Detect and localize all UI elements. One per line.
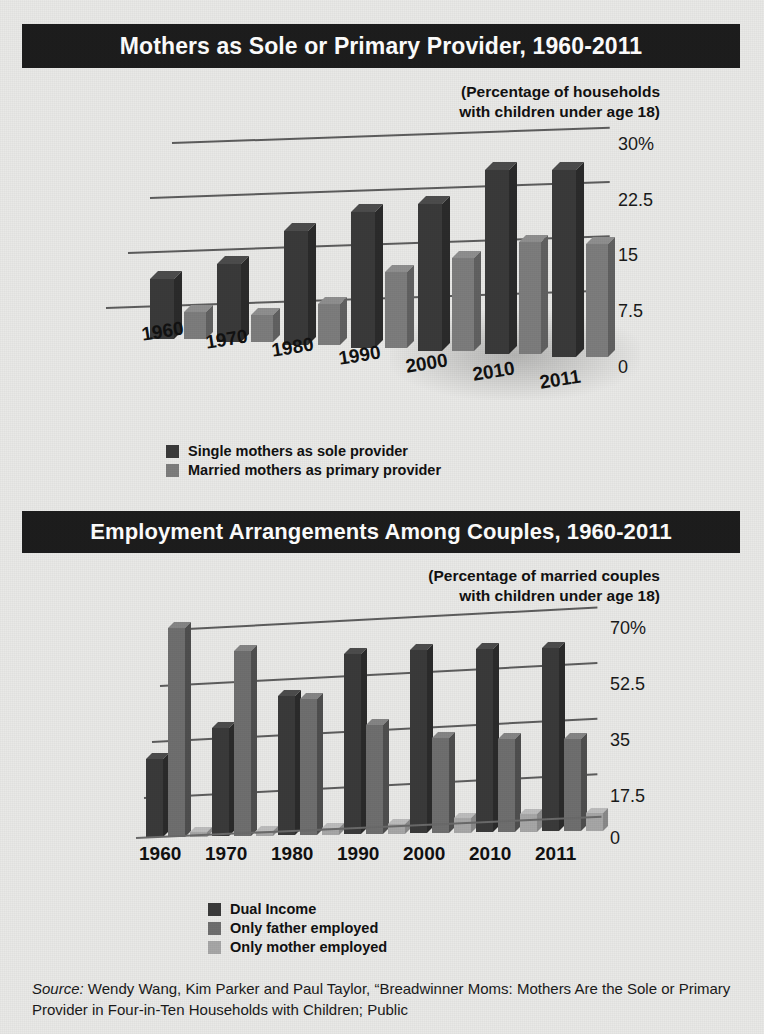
- chart2-gridline-70: [168, 606, 598, 631]
- bar-face: [485, 170, 509, 354]
- legend-label-married-mothers: Married mothers as primary provider: [188, 462, 441, 478]
- legend-swatch-only-mother: [208, 941, 221, 954]
- bar-side: [308, 223, 316, 345]
- legend-label-dual-income: Dual Income: [230, 901, 316, 917]
- bar2-1970-dual: [212, 728, 229, 836]
- chart1-title-bar: Mothers as Sole or Primary Provider, 196…: [22, 24, 740, 68]
- legend-item-married-mothers[interactable]: Married mothers as primary provider: [166, 462, 441, 478]
- chart2-ytick-70: 70%: [610, 618, 646, 639]
- chart2-xlabel-1970: 1970: [205, 843, 247, 865]
- bar-2000-married: [452, 258, 474, 351]
- bar-side: [273, 308, 280, 342]
- bar-side: [509, 162, 517, 354]
- bar-side: [185, 622, 191, 837]
- bar-face: [452, 258, 474, 351]
- legend-label-only-father: Only father employed: [230, 920, 378, 936]
- bar-face: [366, 725, 383, 834]
- chart1-xlabel-2010: 2010: [471, 357, 516, 385]
- bar-face: [146, 759, 163, 837]
- source-label: Source:: [32, 980, 84, 997]
- chart1-xlabel-2011: 2011: [538, 366, 582, 394]
- legend-swatch-dual-income: [208, 903, 221, 916]
- bar-face: [385, 272, 407, 348]
- bar-side: [407, 265, 414, 348]
- bar-side: [375, 204, 383, 348]
- bar-face: [520, 814, 537, 832]
- chart1-ytick-15: 15: [618, 245, 638, 266]
- chart1-subtitle: (Percentage of households with children …: [380, 82, 660, 122]
- chart2-xlabel-1980: 1980: [271, 843, 313, 865]
- bar-side: [383, 719, 389, 834]
- chart2-xlabel-2000: 2000: [403, 843, 445, 865]
- bar-2011-single: [552, 170, 576, 357]
- bar-2010-single: [485, 170, 509, 354]
- chart2-ytick-35: 35: [610, 730, 630, 751]
- bar-side: [541, 235, 548, 354]
- bar-1970-married: [251, 315, 273, 342]
- bar-face: [184, 312, 206, 339]
- chart2-xlabel-2011: 2011: [535, 843, 576, 865]
- bar2-2000-father: [432, 738, 449, 833]
- legend-swatch-only-father: [208, 922, 221, 935]
- bar-face: [542, 648, 559, 831]
- bar-face: [454, 818, 471, 833]
- bar-2000-single: [418, 204, 442, 351]
- chart1-ytick-22: 22.5: [618, 190, 653, 211]
- bar-1980-married: [318, 304, 340, 345]
- bar-1990-single: [351, 212, 375, 348]
- legend-item-single-mothers[interactable]: Single mothers as sole provider: [166, 443, 441, 459]
- chart2-xlabel-2010: 2010: [469, 843, 511, 865]
- chart1-xlabel-1990: 1990: [337, 341, 382, 369]
- bar-face: [476, 649, 493, 832]
- bar-side: [576, 162, 584, 357]
- source-note: Source: Wendy Wang, Kim Parker and Paul …: [32, 978, 732, 1020]
- chart2-legend: Dual Income Only father employed Only mo…: [208, 901, 387, 958]
- chart1-ytick-7: 7.5: [618, 301, 643, 322]
- bar2-2011-dual: [542, 648, 559, 831]
- bar2-2010-father: [498, 739, 515, 832]
- bar2-1960-dual: [146, 759, 163, 837]
- chart1-xlabel-1960: 1960: [140, 317, 185, 345]
- bar2-1990-dual: [344, 654, 361, 834]
- bar-face: [318, 304, 340, 345]
- chart1-plot-area: 30% 22.5 15 7.5 0: [0, 120, 764, 410]
- chart2-gridline-52: [160, 662, 598, 687]
- legend-swatch-single-mothers: [166, 445, 179, 458]
- bar2-1960-father: [168, 628, 185, 837]
- chart1-ytick-0: 0: [618, 357, 628, 378]
- chart2-ytick-17: 17.5: [610, 786, 645, 807]
- bar-1990-married: [385, 272, 407, 348]
- chart1-xlabel-2000: 2000: [404, 349, 449, 377]
- chart1-gridline-30: [172, 127, 610, 144]
- bar-face: [410, 650, 427, 833]
- chart1-title: Mothers as Sole or Primary Provider, 196…: [22, 24, 740, 68]
- legend-item-dual-income[interactable]: Dual Income: [208, 901, 387, 917]
- bar-2011-married: [586, 244, 608, 357]
- bar-face: [552, 170, 576, 357]
- bar-face: [300, 699, 317, 835]
- bar2-2010-dual: [476, 649, 493, 832]
- bar-face: [251, 315, 273, 342]
- legend-item-only-father[interactable]: Only father employed: [208, 920, 387, 936]
- chart2-title: Employment Arrangements Among Couples, 1…: [22, 511, 740, 553]
- bar2-1970-father: [234, 651, 251, 836]
- bar-face: [432, 738, 449, 833]
- bar-face: [212, 728, 229, 836]
- bar-face: [284, 231, 308, 345]
- chart2-xlabel-1960: 1960: [139, 843, 181, 865]
- bar-face: [344, 654, 361, 834]
- legend-swatch-married-mothers: [166, 464, 179, 477]
- bar-side: [603, 808, 608, 831]
- bar2-2010-mother: [520, 814, 537, 832]
- legend-item-only-mother[interactable]: Only mother employed: [208, 939, 387, 955]
- chart1-legend: Single mothers as sole provider Married …: [166, 443, 441, 481]
- bar2-2000-mother: [454, 818, 471, 833]
- bar2-1990-father: [366, 725, 383, 834]
- chart2-ytick-0: 0: [610, 828, 620, 849]
- bar-side: [340, 297, 347, 345]
- bar-side: [251, 645, 257, 836]
- bar-face: [498, 739, 515, 832]
- bar-2010-married: [519, 242, 541, 354]
- bar2-2000-dual: [410, 650, 427, 833]
- bar-face: [519, 242, 541, 354]
